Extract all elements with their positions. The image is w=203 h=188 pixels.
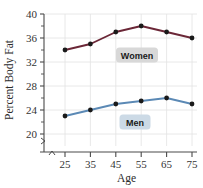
data-point-marker [113,30,118,35]
y-axis-title: Percent Body Fat [3,39,16,120]
y-tick-label: 24 [26,104,38,116]
data-point-marker [190,102,195,107]
data-point-marker [88,42,93,47]
x-axis-ticks: 253545556575 [60,152,199,170]
series-label-men: Men [120,115,151,130]
data-point-marker [139,99,144,104]
series-label-text: Men [126,118,144,128]
y-tick-label: 20 [26,128,38,140]
x-tick-label: 35 [85,158,97,170]
data-point-marker [63,114,68,119]
y-tick-label: 36 [26,32,38,44]
body-fat-line-chart: 202428323640253545556575WomenMenAgePerce… [0,0,203,188]
x-tick-label: 55 [136,158,148,170]
y-axis-ticks: 202428323640 [26,8,44,140]
x-tick-label: 25 [60,158,72,170]
y-tick-label: 32 [26,56,37,68]
x-tick-label: 65 [161,158,173,170]
data-point-marker [190,36,195,41]
axes [40,14,197,152]
data-point-marker [164,30,169,35]
x-tick-label: 75 [187,158,199,170]
data-point-marker [139,24,144,29]
series-label-text: Women [121,51,153,61]
series-line [65,98,192,116]
x-axis-title: Age [117,172,136,185]
y-tick-label: 40 [26,8,38,20]
data-point-marker [88,108,93,113]
x-tick-label: 45 [110,158,122,170]
data-point-marker [164,96,169,101]
chart-canvas: 202428323640253545556575WomenMenAgePerce… [0,0,203,188]
data-point-marker [63,48,68,53]
series-label-women: Women [116,48,158,63]
y-tick-label: 28 [26,80,38,92]
data-point-marker [113,102,118,107]
